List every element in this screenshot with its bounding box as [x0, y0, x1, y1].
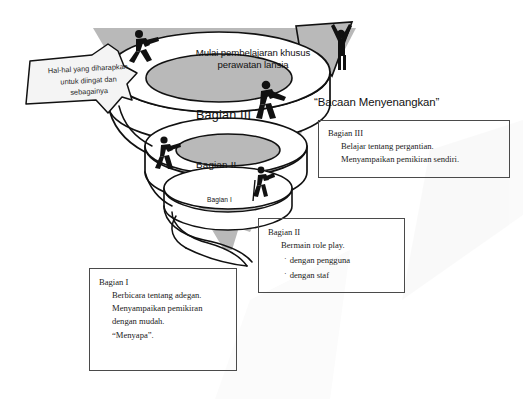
note-two-bullet-2-text: dengan staf: [290, 269, 329, 279]
note-two-bullet-1: ·dengan pengguna: [268, 252, 404, 267]
spiral-label-bagian-i: Bagian I: [207, 196, 232, 203]
bullet-dot-icon: ·: [284, 252, 287, 265]
note-one-line-2: Menyampaikan pemikiran: [99, 302, 236, 315]
note-two-bullet-2: ·dengan staf: [268, 267, 404, 282]
pleasant-reading-heading: “Bacaan Menyenangkan”: [314, 96, 439, 108]
note-two-title: Bagian II: [268, 226, 404, 239]
note-two-line-1: Bermain role play.: [268, 239, 404, 252]
bullet-dot-icon: ·: [284, 267, 287, 280]
arrow-caption-line-2: perawatan lansia: [160, 59, 346, 71]
note-box-bagian-ii: Bagian II Bermain role play. ·dengan pen…: [258, 218, 405, 293]
note-one-line-4: “Menyapa”.: [99, 329, 236, 342]
spiral-label-bagian-ii: Bagian II: [196, 159, 236, 170]
diagram-canvas: Mulai pembelajaran khusus perawatan lans…: [0, 0, 523, 399]
note-three-line-1: Belajar tentang pergantian.: [328, 140, 509, 153]
spiral-label-bagian-iii: Bagian III: [196, 108, 251, 122]
note-three-title: Bagian III: [328, 127, 509, 140]
note-one-line-1: Berbicara tentang adegan.: [99, 289, 236, 302]
arrow-caption: Mulai pembelajaran khusus perawatan lans…: [160, 47, 346, 70]
note-two-bullet-1-text: dengan pengguna: [290, 254, 350, 264]
expectations-callout-text: Hal-hal yang diharapkan untuk diingat da…: [26, 60, 151, 101]
arrow-caption-line-1: Mulai pembelajaran khusus: [160, 47, 346, 59]
note-three-line-2: Menyampaikan pemikiran sendiri.: [328, 153, 509, 166]
note-box-bagian-iii: Bagian III Belajar tentang pergantian. M…: [318, 120, 510, 178]
note-box-bagian-i: Bagian I Berbicara tentang adegan. Menya…: [89, 268, 237, 371]
note-one-line-3: dengan mudah.: [99, 315, 236, 328]
note-one-title: Bagian I: [99, 276, 236, 289]
